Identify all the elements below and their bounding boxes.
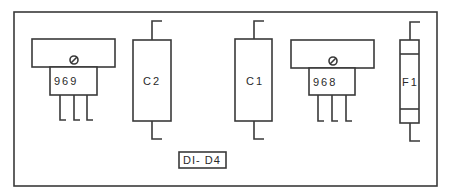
transistor-leads (318, 95, 352, 121)
lead-top (410, 22, 420, 40)
lead-bottom (254, 121, 264, 139)
lead-top (152, 21, 162, 40)
capacitor-c2: C2 (133, 21, 171, 139)
lead-top (254, 21, 264, 39)
component-layout-diagram: 969 C2 C1 (0, 0, 450, 195)
transistor-969: 969 (32, 39, 115, 120)
diode-group-d1-d4: DI- D4 (179, 152, 226, 168)
transistor-label: 969 (54, 75, 78, 87)
lead-bottom (410, 123, 420, 141)
fuse-f1: F1 (400, 22, 420, 141)
transistor-968: 968 (291, 40, 374, 121)
heat-sink-tab (291, 40, 374, 68)
lead-bottom (152, 121, 162, 139)
heat-sink-tab (32, 39, 115, 67)
capacitor-label: C2 (143, 75, 161, 87)
fuse-label: F1 (402, 76, 419, 88)
transistor-label: 968 (313, 76, 337, 88)
capacitor-label: C1 (246, 75, 264, 87)
diode-label: DI- D4 (183, 154, 221, 166)
transistor-leads (60, 95, 93, 120)
capacitor-c1: C1 (235, 21, 272, 139)
